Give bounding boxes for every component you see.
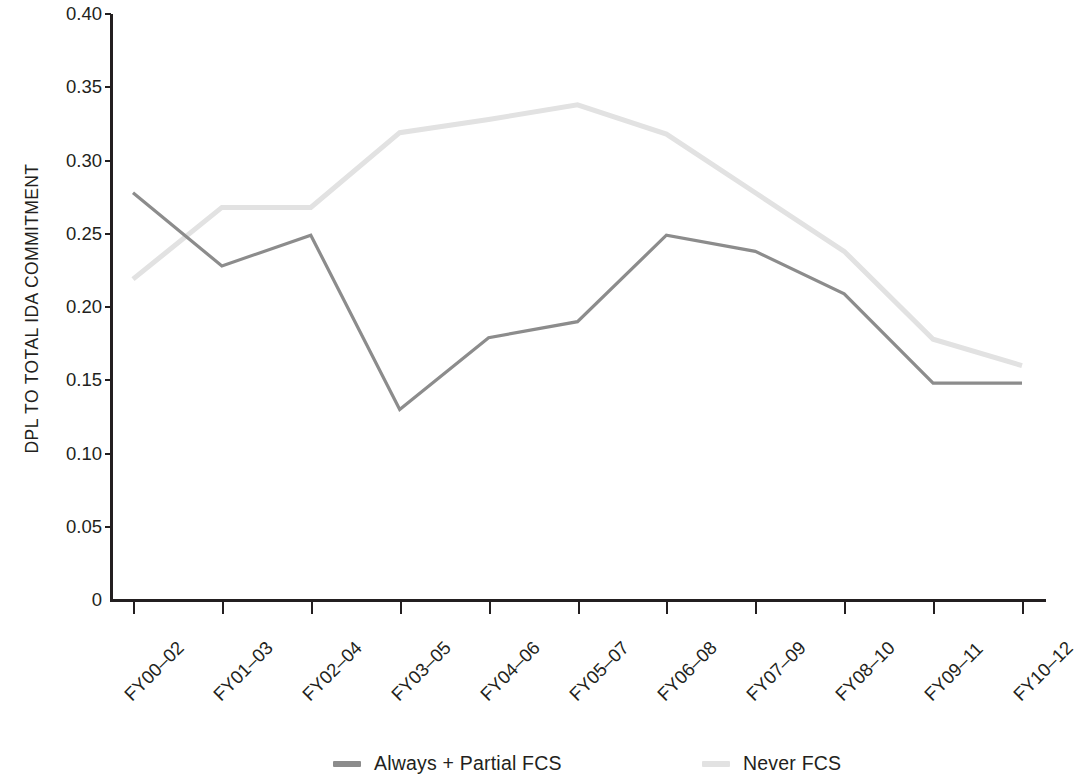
legend-label: Always + Partial FCS	[374, 752, 562, 775]
series-line-never-fcs	[133, 193, 1022, 410]
legend-label: Never FCS	[743, 752, 841, 775]
series-line-always-partial-fcs	[133, 105, 1022, 366]
legend-swatch-icon	[702, 761, 730, 767]
legend-swatch-icon	[333, 761, 361, 767]
chart-legend: Always + Partial FCS Never FCS	[0, 752, 1052, 784]
legend-item-always-partial-fcs: Always + Partial FCS	[333, 752, 562, 775]
legend-item-never-fcs: Never FCS	[702, 752, 841, 775]
